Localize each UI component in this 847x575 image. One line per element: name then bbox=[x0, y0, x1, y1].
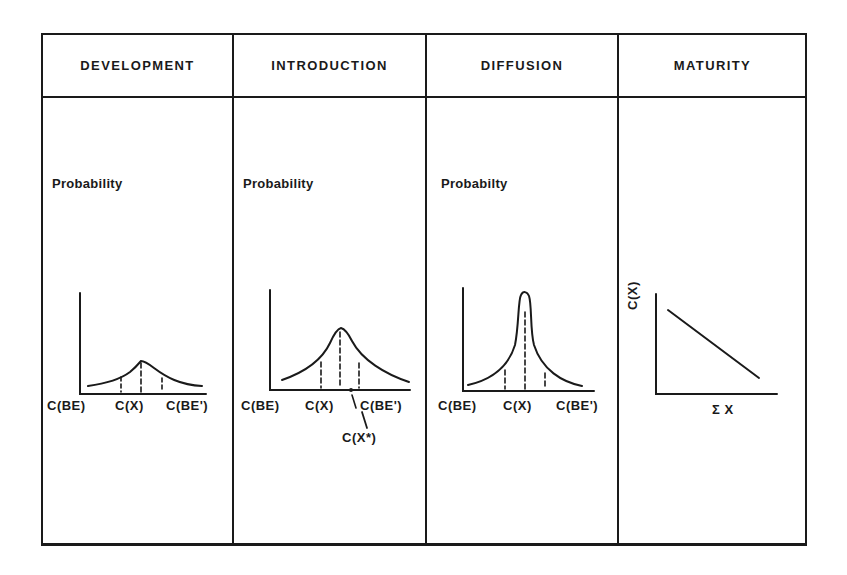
diffusion-plot bbox=[463, 288, 594, 391]
x-label-cbe-development: C(BE) bbox=[47, 398, 86, 413]
c-x-star-marker bbox=[349, 388, 353, 392]
x-label-cx-introduction: C(X) bbox=[305, 398, 334, 413]
development-plot bbox=[80, 293, 206, 394]
y-axis-label-maturity: C(X) bbox=[625, 281, 640, 310]
x-label-cbe-diffusion: C(BE) bbox=[438, 398, 477, 413]
x-label-cbe-prime-introduction: C(BE') bbox=[360, 398, 402, 413]
x-label-cx-development: C(X) bbox=[115, 398, 144, 413]
x-axis-label-maturity: Σ X bbox=[712, 402, 734, 417]
x-label-cbe-prime-development: C(BE') bbox=[166, 398, 208, 413]
x-label-cbe-introduction: C(BE) bbox=[241, 398, 280, 413]
plots-layer bbox=[0, 0, 847, 575]
x-label-cx-diffusion: C(X) bbox=[503, 398, 532, 413]
x-label-cbe-prime-diffusion: C(BE') bbox=[556, 398, 598, 413]
maturity-plot bbox=[656, 294, 777, 394]
annotation-cx-star: C(X*) bbox=[342, 430, 376, 445]
